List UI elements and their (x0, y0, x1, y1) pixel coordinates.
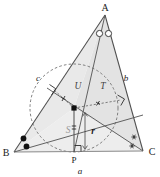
inradius-label: r (91, 126, 95, 136)
filled-dot-icon (24, 144, 30, 150)
filled-dot-icon (21, 136, 27, 142)
vertex-label-A: A (101, 2, 109, 13)
vertex-label-P: P (71, 155, 76, 165)
open-circle-icon (96, 30, 102, 36)
triangle-incircle-figure: A B C P a b c U T S r (0, 0, 160, 177)
side-label-b: b (124, 73, 129, 83)
side-label-c: c (36, 73, 40, 83)
incenter-point (71, 105, 76, 110)
geometry-diagram-canvas: A B C P a b c U T S r (0, 0, 160, 177)
open-circle-icon (105, 30, 111, 36)
vertex-label-C: C (149, 146, 156, 157)
region-label-U: U (75, 81, 83, 91)
region-label-S: S (66, 125, 71, 135)
vertex-label-B: B (3, 147, 10, 158)
side-label-a: a (78, 166, 83, 176)
region-label-T: T (100, 81, 106, 91)
